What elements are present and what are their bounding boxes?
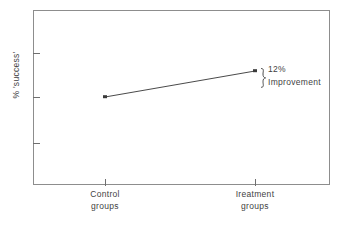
y-axis-label: % 'success' [11,15,21,135]
x-axis-category-treatment: Ireatment groups [200,188,310,212]
y-axis-tick [33,53,40,54]
plot-area [33,10,330,185]
improvement-annotation: 12% Improvement [268,63,321,88]
chart-figure: % 'success' Control groups Ireatment gro… [0,0,347,226]
x-axis-category-control-line1: Control [90,189,120,199]
x-axis-category-treatment-line2: groups [200,200,310,212]
x-axis-category-control: Control groups [50,188,160,212]
x-axis-category-treatment-line1: Ireatment [236,189,275,199]
x-axis-tick [255,179,256,186]
y-axis-tick [33,143,40,144]
x-axis-category-control-line2: groups [50,200,160,212]
x-axis-tick [105,179,106,186]
improvement-value: 12% [268,63,321,76]
improvement-label: Improvement [268,76,321,89]
y-axis-tick [33,97,40,98]
